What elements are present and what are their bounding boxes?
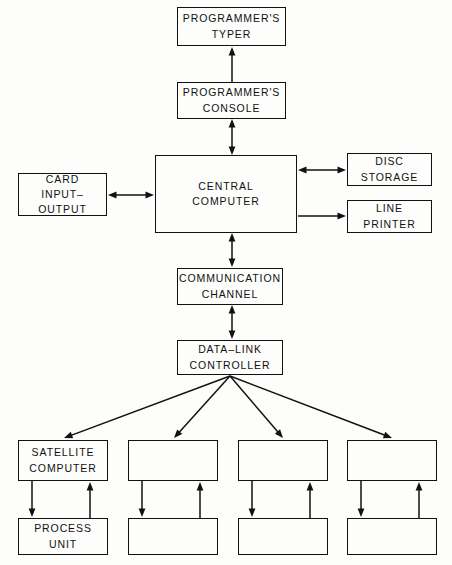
edge-comm-channel-to-data-link	[229, 305, 236, 339]
arrowhead-end-icon	[64, 432, 73, 438]
edge-central-to-comm-channel	[229, 233, 236, 267]
node-card-input-output: CARDINPUT–OUTPUT	[18, 173, 107, 216]
node-label-line: DISC	[375, 154, 404, 169]
arrowhead-end-icon	[307, 482, 314, 491]
edge-central-to-disc-storage	[298, 167, 346, 174]
node-label-line: PROGRAMMER'S	[183, 11, 280, 26]
arrowhead-start-icon	[108, 192, 117, 199]
arrowhead-end-icon	[229, 47, 236, 56]
node-label-line: STORAGE	[361, 170, 418, 185]
node-label-line: INPUT–	[41, 187, 84, 202]
node-communication-channel: COMMUNICATIONCHANNEL	[177, 268, 283, 305]
node-programmers-typer: PROGRAMMER'STYPER	[177, 7, 286, 46]
arrowhead-end-icon	[197, 482, 204, 491]
node-disc-storage: DISCSTORAGE	[347, 153, 432, 186]
arrowhead-end-icon	[87, 482, 94, 491]
node-label-line: COMMUNICATION	[179, 271, 281, 286]
node-label-line: LINE	[376, 201, 403, 216]
node-label-line: COMPUTER	[192, 194, 259, 209]
edge-process-1-to-satellite-1	[87, 482, 94, 518]
arrowhead-end-icon	[275, 429, 283, 438]
node-process-unit-4	[347, 518, 437, 555]
node-label-line: PROGRAMMER'S	[183, 85, 280, 100]
arrowhead-end-icon	[338, 167, 347, 174]
node-satellite-computer-2	[128, 440, 218, 481]
node-process-unit-3	[238, 518, 328, 555]
edge-satellite-3-to-process-3	[249, 481, 256, 517]
arrowhead-end-icon	[383, 432, 392, 438]
node-line-printer: LINEPRINTER	[347, 200, 432, 233]
arrowhead-end-icon	[229, 259, 236, 268]
arrowhead-end-icon	[146, 192, 155, 199]
edge-line	[178, 376, 230, 433]
node-satellite-computer-4	[347, 440, 437, 481]
node-data-link-controller: DATA–LINKCONTROLLER	[177, 340, 283, 375]
edge-line	[230, 376, 386, 436]
arrowhead-end-icon	[229, 331, 236, 340]
arrowhead-end-icon	[249, 509, 256, 518]
edge-process-3-to-satellite-3	[307, 482, 314, 518]
edge-line	[70, 376, 230, 436]
node-programmers-console: PROGRAMMER'SCONSOLE	[177, 82, 286, 119]
arrowhead-end-icon	[174, 429, 182, 438]
node-label-line: TYPER	[212, 27, 252, 42]
node-label-line: UNIT	[49, 537, 77, 552]
node-label-line: COMPUTER	[29, 461, 96, 476]
edge-satellite-4-to-process-4	[358, 481, 365, 517]
edge-console-to-typer	[229, 47, 236, 82]
edge-data-link-to-satellite-1	[64, 376, 230, 438]
node-central-computer: CENTRALCOMPUTER	[155, 155, 297, 233]
arrowhead-end-icon	[416, 482, 423, 491]
edge-satellite-2-to-process-2	[139, 481, 146, 517]
edge-card-io-to-central	[108, 192, 154, 199]
node-label-line: PRINTER	[363, 217, 415, 232]
node-process-unit-2	[128, 518, 218, 555]
node-label-line: CONTROLLER	[190, 358, 271, 373]
node-satellite-computer-3	[238, 440, 328, 481]
arrowhead-start-icon	[229, 233, 236, 242]
edge-data-link-to-satellite-2	[174, 376, 230, 438]
node-label-line: CHANNEL	[202, 287, 258, 302]
edge-data-link-to-satellite-3	[230, 376, 283, 438]
node-label-line: CARD	[46, 172, 79, 187]
node-process-unit-1: PROCESSUNIT	[18, 518, 108, 555]
node-label-line: DATA–LINK	[198, 342, 262, 357]
arrowhead-end-icon	[358, 509, 365, 518]
node-label-line: CONSOLE	[203, 101, 261, 116]
node-label-line: CENTRAL	[198, 179, 253, 194]
node-label-line: PROCESS	[34, 521, 92, 536]
arrowhead-end-icon	[29, 509, 36, 518]
arrowhead-end-icon	[139, 509, 146, 518]
arrowhead-start-icon	[298, 167, 307, 174]
edge-line	[230, 376, 279, 433]
arrowhead-start-icon	[229, 305, 236, 314]
node-satellite-computer-1: SATELLITECOMPUTER	[18, 440, 108, 481]
arrowhead-start-icon	[229, 147, 236, 156]
edge-central-to-console	[229, 119, 236, 155]
edge-process-2-to-satellite-2	[197, 482, 204, 518]
arrowhead-end-icon	[338, 213, 347, 220]
edge-satellite-1-to-process-1	[29, 481, 36, 517]
edge-data-link-to-satellite-4	[230, 376, 392, 438]
node-label-line: OUTPUT	[38, 202, 87, 217]
edge-central-to-line-printer	[298, 213, 346, 220]
node-label-line: SATELLITE	[32, 445, 95, 460]
arrowhead-end-icon	[229, 119, 236, 128]
edge-process-4-to-satellite-4	[416, 482, 423, 518]
block-diagram: PROGRAMMER'STYPERPROGRAMMER'SCONSOLECENT…	[0, 0, 452, 565]
